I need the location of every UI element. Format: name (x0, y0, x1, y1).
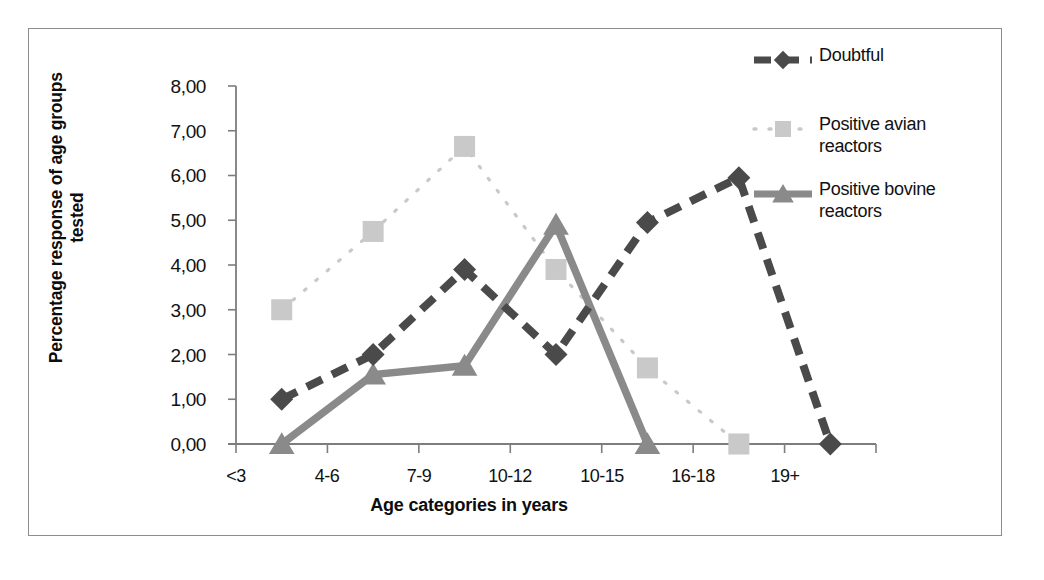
series-positive-bovine-reactors (269, 213, 660, 454)
data-point-marker-square (454, 136, 475, 157)
chart-figure-frame: Percentage response of age groups tested… (28, 28, 1002, 536)
legend-swatches (754, 51, 812, 203)
data-point-marker-square (546, 259, 567, 280)
x-axis-ticks (236, 444, 876, 453)
chart-plot-area (29, 29, 1003, 537)
data-point-marker-diamond (774, 51, 792, 69)
data-point-marker-diamond (819, 433, 842, 456)
data-point-marker-square (775, 121, 791, 137)
series-line (282, 225, 648, 444)
data-point-marker-diamond (636, 211, 659, 234)
data-point-marker-square (271, 299, 292, 320)
series-doubtful (270, 166, 842, 455)
data-point-marker-square (728, 434, 749, 455)
data-point-marker-triangle (543, 213, 569, 235)
data-point-marker-square (637, 357, 658, 378)
y-axis-ticks (228, 86, 236, 444)
data-point-marker-square (363, 221, 384, 242)
data-point-marker-triangle (635, 432, 661, 454)
